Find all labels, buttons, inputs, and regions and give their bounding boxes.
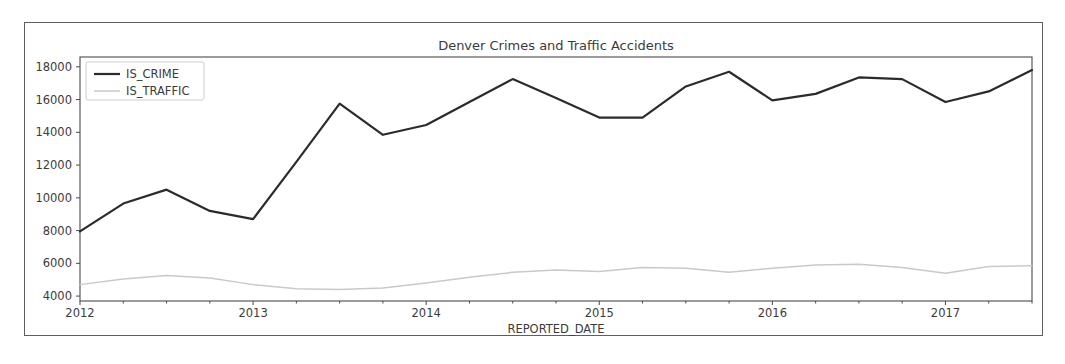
legend-label-is-crime[interactable]: IS_CRIME — [126, 67, 179, 81]
series-line-is-traffic — [80, 264, 1032, 289]
y-axis-ticks: 4000600080001000012000140001600018000 — [35, 60, 80, 303]
y-tick-label: 8000 — [43, 224, 72, 238]
y-tick-label: 18000 — [35, 60, 72, 74]
y-tick-label: 6000 — [43, 256, 72, 270]
x-tick-label: 2015 — [585, 306, 614, 320]
y-tick-label: 10000 — [35, 191, 72, 205]
plot-area-border — [80, 57, 1032, 301]
y-tick-label: 16000 — [35, 93, 72, 107]
x-tick-label: 2016 — [758, 306, 787, 320]
x-axis-ticks: 201220132014201520162017 — [65, 301, 1032, 320]
legend-label-is-traffic[interactable]: IS_TRAFFIC — [126, 84, 190, 98]
y-tick-label: 14000 — [35, 125, 72, 139]
data-series-group — [80, 70, 1032, 289]
y-tick-label: 12000 — [35, 158, 72, 172]
series-line-is-crime — [80, 70, 1032, 231]
line-chart: 201220132014201520162017 400060008000100… — [0, 0, 1065, 364]
x-tick-label: 2017 — [931, 306, 960, 320]
y-tick-label: 4000 — [43, 289, 72, 303]
x-tick-label: 2012 — [65, 306, 94, 320]
x-axis-label: REPORTED_DATE — [507, 322, 604, 336]
figure-root: 201220132014201520162017 400060008000100… — [0, 0, 1065, 364]
x-tick-label: 2013 — [238, 306, 267, 320]
chart-legend: IS_CRIMEIS_TRAFFIC — [86, 62, 204, 100]
chart-title: Denver Crimes and Traffic Accidents — [438, 38, 674, 53]
x-tick-label: 2014 — [412, 306, 441, 320]
axes-spines — [80, 57, 1032, 301]
